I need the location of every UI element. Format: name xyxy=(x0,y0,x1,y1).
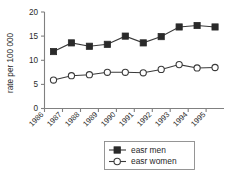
data-point xyxy=(104,69,110,75)
data-point xyxy=(122,69,128,75)
data-point xyxy=(140,40,146,46)
legend-label-men: easr men xyxy=(131,145,166,155)
data-point xyxy=(176,61,182,67)
legend: easr men easr women xyxy=(105,142,195,170)
data-point xyxy=(86,43,92,49)
legend-label-women: easr women xyxy=(131,156,177,166)
data-point xyxy=(68,40,74,46)
chart-container: rate per 100 000 0 5 10 15 20 xyxy=(0,0,251,181)
data-point xyxy=(122,33,128,39)
y-axis-title: rate per 100 000 xyxy=(6,33,15,94)
y-tick-label-15: 15 xyxy=(29,32,39,41)
y-tick-label-5: 5 xyxy=(33,80,38,89)
data-point xyxy=(50,77,56,83)
legend-marker-women-circle-icon xyxy=(114,158,120,164)
data-point xyxy=(212,24,218,30)
y-tick-label-10: 10 xyxy=(29,56,39,65)
data-point xyxy=(194,65,200,71)
data-point xyxy=(68,73,74,79)
y-tick-label-20: 20 xyxy=(29,8,39,17)
data-point xyxy=(158,66,164,72)
data-point xyxy=(212,64,218,70)
data-point xyxy=(176,24,182,30)
data-point xyxy=(50,48,56,54)
data-point xyxy=(194,22,200,28)
data-point xyxy=(86,72,92,78)
data-point xyxy=(158,34,164,40)
data-point xyxy=(140,70,146,76)
data-point xyxy=(104,41,110,47)
legend-marker-men-square-icon xyxy=(114,147,120,153)
